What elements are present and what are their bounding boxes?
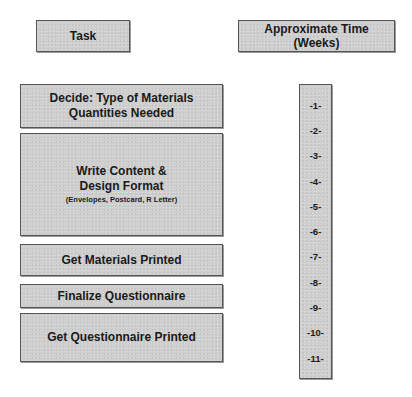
task-write-content: Write Content & Design Format (Envelopes… (20, 133, 223, 236)
week-label: -5- (310, 194, 322, 219)
week-label: -6- (310, 219, 322, 244)
week-label: -4- (310, 169, 322, 194)
task-finalize-questionnaire: Finalize Questionnaire (20, 284, 223, 308)
time-header-line2: (Weeks) (294, 36, 340, 50)
task-get-materials-printed: Get Materials Printed (20, 244, 223, 276)
task-header-label: Task (70, 29, 96, 43)
time-column-header: Approximate Time (Weeks) (238, 20, 395, 52)
week-label: -8- (310, 270, 322, 295)
task-label-line2: Quantities Needed (69, 106, 174, 121)
week-label: -11- (307, 346, 323, 371)
task-label-line2: Design Format (79, 179, 163, 194)
task-label-line1: Get Questionnaire Printed (47, 330, 196, 345)
task-column-header: Task (36, 20, 130, 52)
task-label-line1: Write Content & (76, 164, 166, 179)
week-label: -9- (310, 295, 322, 320)
time-header-line1: Approximate Time (264, 22, 368, 36)
week-label: -7- (310, 245, 322, 270)
week-label: -3- (310, 144, 322, 169)
task-label-line1: Finalize Questionnaire (57, 289, 185, 304)
week-timeline-column: -1- -2- -3- -4- -5- -6- -7- -8- -9- -10-… (299, 84, 332, 379)
week-label: -10- (307, 321, 324, 346)
week-label: -2- (310, 118, 322, 143)
task-sublabel: (Envelopes, Postcard, R Letter) (66, 195, 177, 205)
task-get-questionnaire-printed: Get Questionnaire Printed (20, 313, 223, 362)
task-decide-materials: Decide: Type of Materials Quantities Nee… (20, 84, 223, 128)
task-label-line1: Get Materials Printed (61, 253, 181, 268)
week-label: -1- (310, 93, 322, 118)
task-label-line1: Decide: Type of Materials (50, 91, 194, 106)
